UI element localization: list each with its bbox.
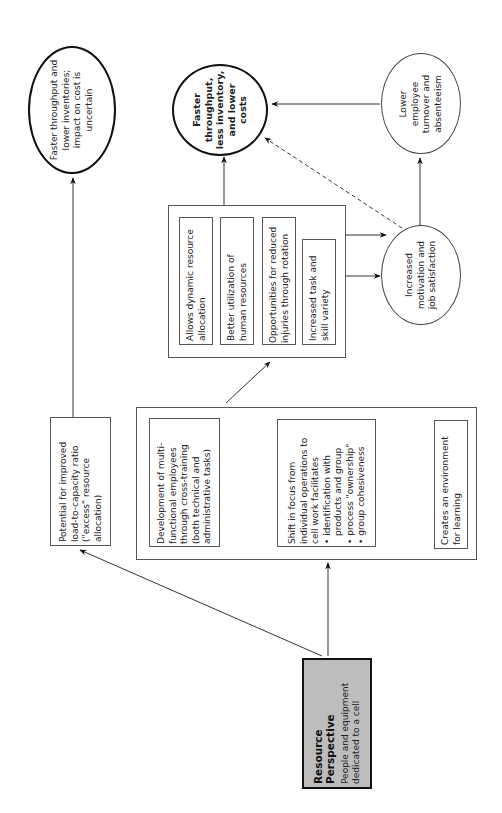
group-text: Creates an environment for learning <box>440 425 463 545</box>
bullet-item: process "ownership" <box>344 422 356 536</box>
group-shift-focus: Shift in focus from individual operation… <box>277 419 376 547</box>
benefit-dynamic-allocation: Allows dynamic resource allocation <box>179 217 213 345</box>
arrow-source-to-potential <box>80 550 322 656</box>
outcome-main-circle: Faster throughput, less inventory, and l… <box>172 64 268 156</box>
benefit-text: Increased task and skill variety <box>308 243 331 341</box>
turnover-text: Lower employee turnover and absenteeism <box>398 67 444 141</box>
motivation-ellipse: Increased motivation and job satisfactio… <box>381 225 461 325</box>
group-development: Development of multi-functional employee… <box>149 418 220 547</box>
source-title: Resource Perspective <box>312 714 336 784</box>
benefit-text: Opportunities for reduced injuries throu… <box>268 219 291 343</box>
benefit-text: Allows dynamic resource allocation <box>185 221 208 341</box>
group-shift-content: Shift in focus from individual operation… <box>286 422 367 544</box>
bullet-item: identification with products and group <box>321 422 344 536</box>
outcome-main-text: Faster throughput, less inventory, and l… <box>191 68 249 152</box>
benefit-utilization: Better utilization of human resources <box>220 217 254 345</box>
potential-text: Potential for improved load-to-capacity … <box>58 422 104 542</box>
source-subtitle: People and equipment dedicated to a cell <box>340 664 362 784</box>
potential-box: Potential for improved load-to-capacity … <box>50 417 111 546</box>
arrow-group-to-benefits <box>226 362 270 403</box>
benefit-text: Better utilization of human resources <box>226 221 249 341</box>
outcome-left-text: Faster throughput and lower inventories;… <box>49 54 95 166</box>
outcome-left-ellipse: Faster throughput and lower inventories;… <box>28 46 116 174</box>
turnover-ellipse: Lower employee turnover and absenteeism <box>381 53 461 154</box>
benefit-reduced-injuries: Opportunities for reduced injuries throu… <box>262 217 296 345</box>
group-text: Shift in focus from individual operation… <box>286 422 321 544</box>
bullet-item: group cohesiveness <box>355 422 367 536</box>
motivation-text: Increased motivation and job satisfactio… <box>404 238 439 312</box>
group-learning: Creates an environment for learning <box>434 420 468 549</box>
group-text: Development of multi-functional employee… <box>156 422 214 544</box>
resource-perspective-box: Resource Perspective People and equipmen… <box>302 658 372 789</box>
benefit-task-variety: Increased task and skill variety <box>302 239 336 345</box>
group-bullets: identification with products and group p… <box>321 422 367 544</box>
resource-perspective-content: Resource Perspective People and equipmen… <box>312 664 362 784</box>
